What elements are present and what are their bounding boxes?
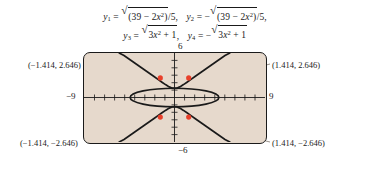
callout-top-right: (1.414, 2.646) bbox=[272, 60, 320, 70]
callout-top-left: (−1.414, 2.646) bbox=[28, 60, 81, 70]
figure-root: y1 = (39 − 2x2)/5, y2 = −(39 − 2x2)/5, y… bbox=[0, 0, 370, 188]
window-ymax-label: 6 bbox=[178, 41, 183, 51]
window-xmax-label: 9 bbox=[269, 91, 274, 101]
equation-y3: y3 = 3x2 + 1, bbox=[123, 25, 179, 44]
axes bbox=[84, 53, 265, 142]
calculator-screen bbox=[83, 52, 267, 144]
window-ymin-label: −6 bbox=[178, 145, 188, 155]
plot-svg bbox=[84, 53, 265, 142]
intersection-point-bottom-right bbox=[186, 115, 191, 120]
window-xmin-label: −9 bbox=[66, 91, 76, 101]
equation-y1: y1 = (39 − 2x2)/5, bbox=[103, 6, 178, 25]
intersection-point-top-left bbox=[158, 75, 163, 80]
equation-y4: y4 = −3x2 + 1 bbox=[188, 25, 247, 44]
equation-block: y1 = (39 − 2x2)/5, y2 = −(39 − 2x2)/5, y… bbox=[0, 6, 370, 43]
equation-line-2: y3 = 3x2 + 1, y4 = −3x2 + 1 bbox=[0, 25, 370, 44]
equation-y2: y2 = −(39 − 2x2)/5, bbox=[187, 6, 267, 25]
intersection-point-top-right bbox=[186, 75, 191, 80]
graph-window bbox=[83, 52, 267, 144]
intersection-point-bottom-left bbox=[158, 115, 163, 120]
equation-line-1: y1 = (39 − 2x2)/5, y2 = −(39 − 2x2)/5, bbox=[0, 6, 370, 25]
callout-bottom-left: (−1.414, −2.646) bbox=[20, 138, 78, 148]
callout-bottom-right: (1.414, −2.646) bbox=[272, 138, 325, 148]
